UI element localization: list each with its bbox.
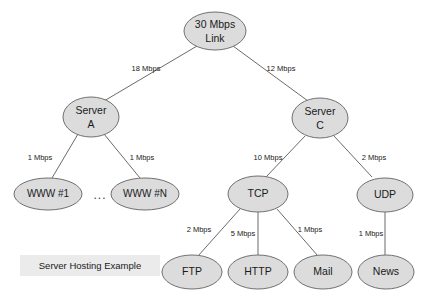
ellipsis-icon: ... xyxy=(93,188,106,202)
edge-label-server-c-to-udp: 2 Mbps xyxy=(362,153,387,162)
edge-label-tcp-to-http: 5 Mbps xyxy=(231,229,256,238)
edge-label-root-to-server-a: 18 Mbps xyxy=(132,64,161,73)
node-tcp[interactable]: TCP xyxy=(228,176,288,212)
edge-server-a-to-www-1 xyxy=(52,134,78,178)
edge-label-tcp-to-mail: 1 Mbps xyxy=(298,225,323,234)
diagram-canvas: 18 Mbps 12 Mbps 1 Mbps 1 Mbps 10 Mbps 2 … xyxy=(0,0,433,301)
edge-label-server-a-to-www-n: 1 Mbps xyxy=(130,153,155,162)
node-root-link-label-line2: Link xyxy=(205,32,225,44)
node-ftp[interactable]: FTP xyxy=(162,255,222,289)
node-root-link[interactable]: 30 Mbps Link xyxy=(184,12,246,50)
node-mail[interactable]: Mail xyxy=(294,255,352,289)
edge-label-root-to-server-c: 12 Mbps xyxy=(267,64,296,73)
node-server-c-label-line2: C xyxy=(316,119,324,131)
node-udp[interactable]: UDP xyxy=(357,178,413,212)
caption-label: Server Hosting Example xyxy=(39,260,141,271)
node-ftp-label: FTP xyxy=(182,265,202,277)
node-server-c-label-line1: Server xyxy=(305,105,336,117)
node-news-label: News xyxy=(373,265,399,277)
edge-label-server-a-to-www-1: 1 Mbps xyxy=(28,153,53,162)
node-www-1[interactable]: WWW #1 xyxy=(14,178,82,210)
node-www-n[interactable]: WWW #N xyxy=(111,178,179,210)
caption: Server Hosting Example xyxy=(20,255,160,276)
node-mail-label: Mail xyxy=(313,265,332,277)
edge-label-tcp-to-ftp: 2 Mbps xyxy=(187,225,212,234)
network-diagram: 18 Mbps 12 Mbps 1 Mbps 1 Mbps 10 Mbps 2 … xyxy=(0,0,433,301)
node-server-c[interactable]: Server C xyxy=(292,98,348,138)
node-http[interactable]: HTTP xyxy=(228,255,288,289)
edge-label-udp-to-news: 1 Mbps xyxy=(359,229,384,238)
node-root-link-label-line1: 30 Mbps xyxy=(195,18,235,30)
edge-label-server-c-to-tcp: 10 Mbps xyxy=(254,153,283,162)
node-server-a-label-line2: A xyxy=(87,118,94,130)
node-www-1-label: WWW #1 xyxy=(27,188,70,199)
node-tcp-label: TCP xyxy=(248,187,269,199)
node-www-n-label: WWW #N xyxy=(123,188,167,199)
node-http-label: HTTP xyxy=(244,265,271,277)
node-news[interactable]: News xyxy=(358,255,414,289)
node-udp-label: UDP xyxy=(374,188,396,200)
edge-layer xyxy=(52,46,385,256)
edge-root-to-server-c xyxy=(233,46,308,101)
edge-label-layer: 18 Mbps 12 Mbps 1 Mbps 1 Mbps 10 Mbps 2 … xyxy=(28,64,387,238)
node-server-a-label-line1: Server xyxy=(76,104,107,116)
node-server-a[interactable]: Server A xyxy=(63,97,119,137)
edge-root-to-server-a xyxy=(104,46,197,101)
